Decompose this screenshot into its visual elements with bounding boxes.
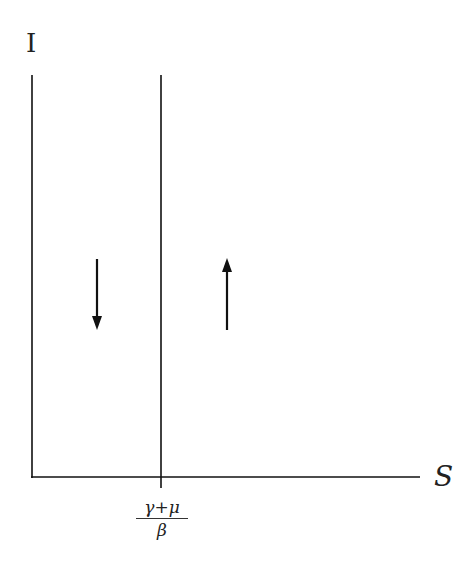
up-arrow-icon	[222, 258, 232, 330]
y-axis-label: I	[26, 28, 36, 58]
fraction-numerator: γ+μ	[136, 497, 188, 519]
fraction-denominator: β	[136, 519, 188, 540]
nullcline-label: γ+μ β	[136, 497, 188, 540]
x-axis-label: S	[434, 460, 453, 493]
down-arrow-icon	[92, 259, 102, 330]
phase-diagram	[0, 0, 476, 563]
